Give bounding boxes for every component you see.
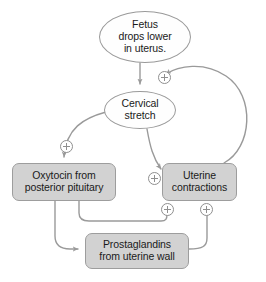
node-uterine-contractions: Uterine contractions xyxy=(162,163,237,201)
node-oxytocin-label: Oxytocin from posterior pituitary xyxy=(25,170,104,194)
edge-cervical-to-uterine xyxy=(147,129,161,169)
edge-oxytocin-to-uterine xyxy=(79,201,167,221)
node-cervical-label: Cervical stretch xyxy=(121,98,158,122)
plus-circle-icon-prostaglandins-to-uterine xyxy=(200,203,213,216)
edge-uterine-to-cervical xyxy=(166,66,247,163)
node-cervical-stretch: Cervical stretch xyxy=(104,91,176,129)
plus-circle-icon-oxytocin-to-uterine xyxy=(161,203,174,216)
node-oxytocin-posterior-pituitary: Oxytocin from posterior pituitary xyxy=(12,163,116,201)
plus-circle-icon-uterine-to-cervical xyxy=(158,71,171,84)
plus-circle-icon-cervical-to-oxytocin xyxy=(60,140,73,153)
edge-oxytocin-to-prostaglandins xyxy=(55,201,78,249)
node-prostaglandins-uterine-wall: Prostaglandins from uterine wall xyxy=(85,233,189,269)
plus-circle-icon-cervical-to-uterine xyxy=(148,172,161,185)
node-fetus-label: Fetus drops lower in uterus. xyxy=(118,19,171,54)
node-fetus-drops-lower: Fetus drops lower in uterus. xyxy=(99,11,191,63)
node-prostaglandins-label: Prostaglandins from uterine wall xyxy=(99,239,174,263)
feedback-loop-diagram: Fetus drops lower in uterus. Cervical st… xyxy=(0,0,266,282)
node-uterine-label: Uterine contractions xyxy=(172,170,227,194)
